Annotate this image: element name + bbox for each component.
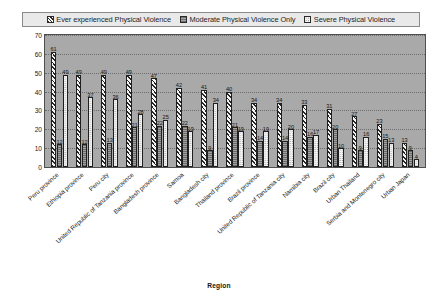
bar[interactable]: 61 — [51, 52, 56, 167]
y-tick-label-0: 0 — [18, 164, 42, 171]
bar-value-label: 37 — [87, 92, 93, 98]
bar[interactable]: 4 — [414, 159, 419, 167]
hatch-swatch-icon — [47, 16, 54, 23]
bar-group: 341420 — [273, 35, 298, 167]
bar-value-label: 31 — [326, 103, 332, 109]
bar-value-label: 13 — [107, 137, 113, 143]
bar[interactable]: 42 — [176, 88, 181, 167]
bar[interactable]: 21 — [132, 127, 137, 167]
bar-value-label: 34 — [276, 97, 282, 103]
x-label-slot: Serbia and Montenegro city — [373, 169, 398, 239]
chart-legend: Ever experienced Physical Violence Moder… — [22, 12, 420, 27]
legend-label-ever-experienced: Ever experienced Physical Violence — [56, 15, 171, 24]
bar-value-label: 49 — [101, 69, 107, 75]
bar[interactable]: 22 — [157, 126, 162, 167]
y-axis-tick-labels: 706050403020100 — [18, 30, 42, 166]
bar[interactable]: 21 — [232, 127, 237, 167]
bar-group: 312010 — [323, 35, 348, 167]
bar-group: 492128 — [122, 35, 147, 167]
bar-value-label: 10 — [338, 143, 344, 149]
legend-item-severe[interactable]: Severe Physical Violence — [304, 15, 395, 24]
bar-group: 341419 — [248, 35, 273, 167]
bar-value-label: 19 — [238, 126, 244, 132]
bar[interactable]: 23 — [377, 124, 382, 167]
bar-value-label: 19 — [263, 126, 269, 132]
y-tick-label-10: 10 — [18, 145, 42, 152]
legend-item-ever-experienced[interactable]: Ever experienced Physical Violence — [47, 15, 171, 24]
bar[interactable]: 17 — [313, 135, 318, 167]
bar[interactable]: 9 — [358, 150, 363, 167]
bar[interactable]: 16 — [307, 137, 312, 167]
bar-value-label: 20 — [288, 124, 294, 130]
bar[interactable]: 37 — [88, 97, 93, 167]
x-label-slot: United Republic of Tanzania city — [273, 169, 298, 239]
bar-group: 472225 — [147, 35, 172, 167]
bar[interactable]: 12 — [57, 144, 62, 167]
y-tick-label-40: 40 — [18, 88, 42, 95]
bar[interactable]: 12 — [82, 144, 87, 167]
bar[interactable]: 49 — [76, 75, 81, 167]
bar[interactable]: 20 — [288, 129, 293, 167]
bar[interactable]: 13 — [402, 143, 407, 168]
bar-value-label: 41 — [201, 84, 207, 90]
bar[interactable]: 41 — [201, 90, 206, 167]
bar[interactable]: 28 — [138, 114, 143, 167]
bar-value-label: 13 — [388, 137, 394, 143]
bar-group: 611249 — [47, 35, 72, 167]
bar[interactable]: 13 — [107, 143, 112, 168]
bar[interactable]: 16 — [363, 137, 368, 167]
bar-value-label: 17 — [313, 129, 319, 135]
legend-label-severe: Severe Physical Violence — [314, 15, 395, 24]
bar[interactable]: 19 — [188, 131, 193, 167]
bar[interactable]: 40 — [226, 92, 231, 167]
bar[interactable]: 9 — [207, 150, 212, 167]
bar-value-label: 14 — [282, 135, 288, 141]
bar-value-label: 22 — [157, 120, 163, 126]
bar-value-label: 25 — [163, 114, 169, 120]
bar-value-label: 40 — [226, 86, 232, 92]
physical-violence-bar-chart: Ever experienced Physical Violence Moder… — [0, 0, 438, 303]
bar-value-label: 36 — [112, 94, 118, 100]
bar-group: 231513 — [373, 35, 398, 167]
legend-item-moderate-only[interactable]: Moderate Physical Violence Only — [180, 15, 295, 24]
bar[interactable]: 14 — [282, 141, 287, 167]
y-tick-label-30: 30 — [18, 107, 42, 114]
bar[interactable]: 49 — [63, 75, 68, 167]
bar-value-label: 19 — [188, 126, 194, 132]
bar-value-label: 42 — [176, 82, 182, 88]
bar[interactable]: 27 — [352, 116, 357, 167]
legend-label-moderate-only: Moderate Physical Violence Only — [189, 15, 295, 24]
bar-group: 1394 — [398, 35, 423, 167]
bar-value-label: 34 — [213, 97, 219, 103]
bar[interactable]: 10 — [338, 148, 343, 167]
bar[interactable]: 36 — [113, 99, 118, 167]
bar[interactable]: 19 — [263, 131, 268, 167]
bar[interactable]: 22 — [182, 126, 187, 167]
bar-value-label: 9 — [359, 145, 362, 151]
bar[interactable]: 19 — [238, 131, 243, 167]
bar[interactable]: 31 — [327, 109, 332, 167]
bar-value-label: 49 — [62, 69, 68, 75]
dotted-swatch-icon — [304, 16, 311, 23]
bar[interactable]: 34 — [213, 103, 218, 167]
bar[interactable]: 49 — [101, 75, 106, 167]
y-tick-label-50: 50 — [18, 69, 42, 76]
bar-value-label: 34 — [251, 97, 257, 103]
bar[interactable]: 9 — [408, 150, 413, 167]
bar-value-label: 49 — [126, 69, 132, 75]
bar[interactable]: 25 — [163, 120, 168, 167]
bar-value-label: 14 — [257, 135, 263, 141]
bar-groups: 6112494912374913364921284722254222194193… — [45, 35, 425, 167]
bar-value-label: 12 — [56, 139, 62, 145]
y-tick-label-20: 20 — [18, 126, 42, 133]
bar-value-label: 9 — [208, 145, 211, 151]
x-label-slot: Namibia city — [298, 169, 323, 239]
bar-group: 491237 — [72, 35, 97, 167]
bar[interactable]: 49 — [126, 75, 131, 167]
x-axis-category-labels: Peru provinceEthiopia provincePeru cityU… — [45, 169, 425, 239]
bar-value-label: 33 — [301, 99, 307, 105]
bar-value-label: 12 — [81, 139, 87, 145]
bar-value-label: 13 — [401, 137, 407, 143]
bar[interactable]: 13 — [389, 143, 394, 168]
bar[interactable]: 14 — [257, 141, 262, 167]
